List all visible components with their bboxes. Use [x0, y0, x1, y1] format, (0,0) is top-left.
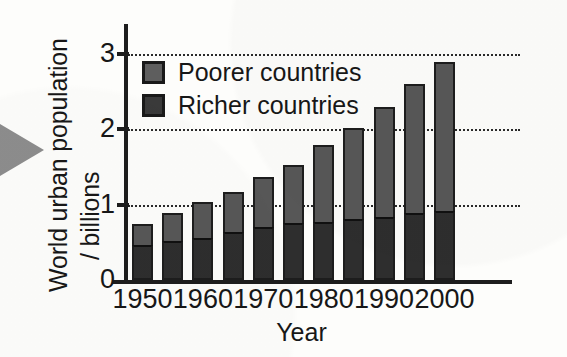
bar-segment-richer-1960 [192, 238, 213, 280]
bar-segment-poorer-1985 [343, 128, 364, 219]
bar-segment-richer-1980 [313, 222, 334, 280]
bar-segment-richer-1955 [162, 241, 183, 280]
legend-swatch-icon-poor [142, 61, 165, 84]
y-tick-label-3: 3 [100, 39, 115, 66]
y-tick-mark-1 [117, 203, 129, 207]
table-row [374, 107, 395, 280]
table-row [253, 177, 274, 280]
bar-segment-poorer-1965 [223, 192, 244, 233]
table-row [223, 192, 244, 280]
y-tick-mark-2 [117, 127, 129, 131]
bar-segment-richer-1975 [283, 223, 304, 280]
y-axis-title: World urban population / billions [18, 0, 110, 300]
bar-segment-richer-1965 [223, 232, 244, 280]
table-row [343, 128, 364, 281]
x-tick-label-1990: 1990 [354, 286, 414, 313]
figure-canvas: World urban population / billions 0123 1… [0, 0, 567, 357]
y-axis-title-line-1: World urban population [44, 38, 73, 292]
bar-segment-richer-2000 [434, 211, 455, 280]
table-row [434, 62, 455, 280]
legend-label-1: Poorer countries [178, 60, 361, 85]
y-axis-line [124, 24, 128, 282]
table-row [192, 202, 213, 280]
bar-segment-richer-1990 [374, 217, 395, 280]
bar-segment-poorer-1995 [404, 84, 425, 212]
x-tick-label-1980: 1980 [294, 286, 354, 313]
bar-segment-poorer-1955 [162, 213, 183, 241]
x-axis-title: Year [0, 318, 567, 347]
bar-segment-poorer-1950 [132, 224, 153, 245]
table-row [132, 224, 153, 280]
bar-segment-poorer-1980 [313, 145, 334, 222]
bar-segment-poorer-1970 [253, 177, 274, 227]
bar-segment-richer-1970 [253, 227, 274, 280]
table-row [404, 84, 425, 280]
x-tick-label-1970: 1970 [233, 286, 293, 313]
bar-segment-richer-1995 [404, 213, 425, 280]
legend-item-1: Poorer countries [142, 56, 361, 89]
table-row [162, 213, 183, 280]
x-tick-label-1950: 1950 [112, 286, 172, 313]
plot-area: 0123 195019601970198019902000 Poorer cou… [124, 24, 520, 282]
legend-item-2: Richer countries [142, 89, 361, 122]
bar-segment-richer-1985 [343, 219, 364, 280]
y-tick-mark-3 [117, 52, 129, 56]
x-tick-label-1960: 1960 [173, 286, 233, 313]
bar-segment-poorer-1960 [192, 202, 213, 237]
table-row [313, 145, 334, 280]
legend: Poorer countriesRicher countries [142, 56, 361, 122]
bar-segment-richer-1950 [132, 245, 153, 280]
legend-swatch-icon-rich [142, 94, 165, 117]
legend-label-2: Richer countries [178, 93, 359, 118]
gridline-2 [128, 129, 520, 131]
bar-segment-poorer-2000 [434, 62, 455, 211]
table-row [283, 165, 304, 281]
x-axis-title-text: Year [240, 318, 327, 346]
y-tick-label-1: 1 [100, 190, 115, 217]
bar-segment-poorer-1975 [283, 165, 304, 224]
y-tick-label-2: 2 [100, 115, 115, 142]
bar-segment-poorer-1990 [374, 107, 395, 217]
x-tick-label-2000: 2000 [414, 286, 474, 313]
